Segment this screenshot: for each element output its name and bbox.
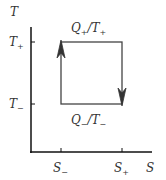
cycle-rectangle xyxy=(61,42,122,104)
y-axis-label: T xyxy=(10,6,18,18)
ts-diagram: T T+ T− Q+/T+ Q−/T− S− S+ S xyxy=(0,0,166,180)
edge-label-top: Q+/T+ xyxy=(71,22,106,37)
tick-label-s-plus: S+ xyxy=(114,162,129,177)
edge-label-bottom: Q−/T− xyxy=(71,114,106,129)
tick-label-s-minus: S− xyxy=(53,162,68,177)
tick-label-t-minus: T− xyxy=(9,98,24,113)
x-axis-label: S xyxy=(146,162,154,174)
tick-label-t-plus: T+ xyxy=(9,36,24,51)
